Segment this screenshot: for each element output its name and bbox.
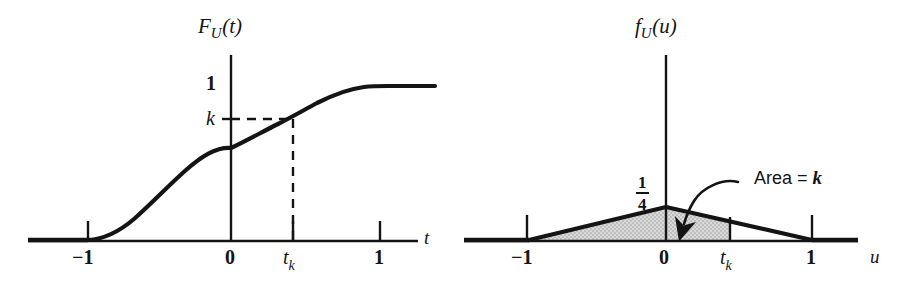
- cdf-x-axis-variable: t: [424, 228, 429, 247]
- cdf-tk-subscript: k: [289, 258, 295, 273]
- pdf-area-annotation: Area = k: [754, 168, 822, 187]
- cdf-fn-subscript: U: [211, 25, 222, 41]
- pdf-shaded-area-texture: [529, 207, 730, 240]
- pdf-fn-subscript: U: [641, 25, 652, 41]
- pdf-peak-denominator: 4: [636, 195, 649, 213]
- pdf-x-label-minus-one: −1: [511, 247, 532, 267]
- pdf-area-annotation-symbol: k: [813, 167, 823, 188]
- pdf-x-axis-variable: u: [870, 247, 880, 266]
- pdf-panel: fU(u) 1 4 Area = k −1 0 tk 1 u: [454, 0, 908, 289]
- pdf-y-axis-function-label: fU(u): [635, 16, 677, 41]
- pdf-peak-value-label: 1 4: [636, 174, 649, 214]
- pdf-fn-argument: (u): [652, 14, 677, 38]
- cdf-curve: [88, 86, 435, 240]
- pdf-area-annotation-text: Area =: [754, 168, 808, 188]
- pdf-x-label-tk: tk: [720, 247, 732, 273]
- pdf-peak-numerator: 1: [636, 174, 649, 192]
- cdf-x-label-zero: 0: [225, 247, 235, 267]
- cdf-x-label-minus-one: −1: [72, 247, 93, 267]
- cdf-panel: FU(t) 1 k −1 0 tk 1 t: [0, 0, 454, 289]
- cdf-x-label-one: 1: [374, 247, 384, 267]
- cdf-y-label-k: k: [206, 108, 215, 128]
- cdf-y-axis-function-label: FU(t): [198, 16, 242, 41]
- pdf-x-label-one: 1: [806, 247, 816, 267]
- cdf-x-label-tk: tk: [283, 247, 295, 273]
- cdf-y-label-one: 1: [206, 73, 216, 93]
- pdf-fraction-bar: [636, 192, 649, 194]
- cdf-fn-base: F: [198, 14, 211, 38]
- figure-container: FU(t) 1 k −1 0 tk 1 t: [0, 0, 908, 289]
- pdf-tk-subscript: k: [726, 258, 732, 273]
- cdf-fn-argument: (t): [222, 14, 242, 38]
- pdf-x-label-zero: 0: [659, 247, 669, 267]
- pdf-peak-fraction: 1 4: [636, 174, 649, 214]
